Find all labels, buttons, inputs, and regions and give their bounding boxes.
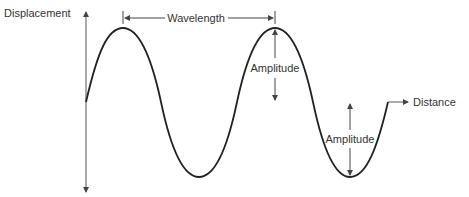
amplitude-bottom-label: Amplitude [326,133,375,145]
x-axis-label: Distance [413,96,456,108]
y-axis-label: Displacement [4,7,71,19]
wavelength-label: Wavelength [167,12,225,24]
wave-diagram: Displacement Wavelength Amplitude Amplit… [0,0,469,197]
amplitude-top-label: Amplitude [251,62,300,74]
